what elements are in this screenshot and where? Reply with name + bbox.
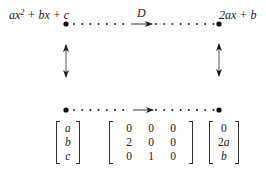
map-d-label: D	[137, 7, 146, 19]
dot	[98, 23, 100, 25]
dot	[98, 109, 100, 111]
dot	[188, 23, 190, 25]
top-left-node	[63, 21, 68, 26]
bottom-left-node	[63, 107, 68, 112]
dot	[212, 23, 214, 25]
matrix-entry: 0	[140, 136, 162, 149]
dot	[180, 23, 182, 25]
matrix-entry: 0	[162, 150, 184, 163]
dot	[155, 23, 157, 25]
dot	[89, 109, 91, 111]
dot	[188, 109, 190, 111]
matrix-entry: 0	[162, 122, 184, 135]
vector-entry: a	[65, 122, 71, 135]
matrix-entry: 1	[140, 150, 162, 163]
dot	[204, 23, 206, 25]
dot	[204, 109, 206, 111]
matrix-entry: 0	[118, 150, 140, 163]
derivative-label: 2ax + b	[219, 9, 256, 21]
matrix-entry: 0	[118, 122, 140, 135]
input-coordinate-vector: a b c	[56, 121, 80, 164]
dot	[212, 109, 214, 111]
dot	[163, 23, 165, 25]
vector-entry: b	[65, 136, 71, 149]
derivative-matrix: 0 0 0 2 0 0 0 1 0	[109, 121, 193, 164]
dot	[106, 23, 108, 25]
matrix-entry: 2	[118, 136, 140, 149]
dot	[114, 109, 116, 111]
dot	[171, 23, 173, 25]
dot	[196, 109, 198, 111]
dot	[81, 23, 83, 25]
dot	[122, 109, 124, 111]
dot	[114, 23, 116, 25]
vector-entry: c	[65, 150, 71, 163]
dot	[196, 23, 198, 25]
dot	[155, 109, 157, 111]
dot	[106, 109, 108, 111]
vector-entry: 0	[218, 122, 230, 135]
top-right-node	[216, 21, 221, 26]
dot	[171, 109, 173, 111]
dot	[122, 23, 124, 25]
dot	[73, 23, 75, 25]
dot	[163, 109, 165, 111]
matrix-entry: 0	[162, 136, 184, 149]
vector-entry: 2a	[218, 136, 230, 149]
bottom-right-node	[216, 107, 221, 112]
dot	[81, 109, 83, 111]
matrix-entry: 0	[140, 122, 162, 135]
polynomial-label: ax2 + bx + c	[9, 9, 69, 21]
output-coordinate-vector: 0 2a b	[209, 121, 239, 164]
dot	[89, 23, 91, 25]
dot	[73, 109, 75, 111]
vector-entry: b	[218, 150, 230, 163]
dot	[180, 109, 182, 111]
